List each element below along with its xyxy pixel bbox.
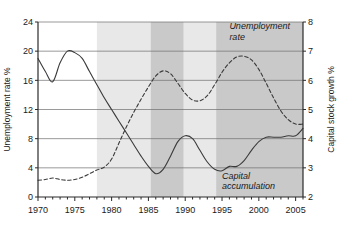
ytick-label-4: 4 <box>28 163 33 173</box>
xtick-label-2000: 2000 <box>249 205 269 215</box>
xtick-label-2005: 2005 <box>286 205 306 215</box>
y2tick-label-2: 2 <box>308 192 313 202</box>
y2tick-label-4: 4 <box>308 134 313 144</box>
ytick-label-12: 12 <box>23 105 33 115</box>
xtick-label-1970: 1970 <box>28 205 48 215</box>
ytick-label-0: 0 <box>28 192 33 202</box>
y2tick-label-8: 8 <box>308 17 313 27</box>
y2tick-label-5: 5 <box>308 105 313 115</box>
ytick-label-8: 8 <box>28 134 33 144</box>
y2-axis-title: Capital stock growth % <box>326 66 336 153</box>
ytick-label-20: 20 <box>23 46 33 56</box>
xtick-label-1980: 1980 <box>102 205 122 215</box>
xtick-label-1990: 1990 <box>175 205 195 215</box>
y2tick-label-3: 3 <box>308 163 313 173</box>
y2tick-label-7: 7 <box>308 46 313 56</box>
ytick-label-24: 24 <box>23 17 33 27</box>
xtick-label-1975: 1975 <box>65 205 85 215</box>
xtick-label-1995: 1995 <box>212 205 232 215</box>
chart-figure: 0481216202423456781970197519801985199019… <box>0 0 342 242</box>
dual-axis-line-chart: 0481216202423456781970197519801985199019… <box>0 0 342 242</box>
xtick-label-1985: 1985 <box>138 205 158 215</box>
ytick-label-16: 16 <box>23 76 33 86</box>
y-axis-title: Unemployment rate % <box>2 67 12 152</box>
y2tick-label-6: 6 <box>308 76 313 86</box>
